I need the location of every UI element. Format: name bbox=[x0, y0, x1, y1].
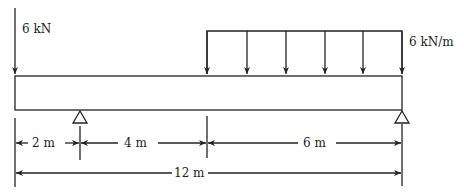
point-load-label: 6 kN bbox=[22, 22, 51, 36]
dim-6m: 6 m bbox=[303, 136, 326, 150]
beam bbox=[15, 76, 402, 110]
left-support bbox=[73, 111, 87, 123]
right-support bbox=[395, 111, 409, 123]
dim-4m: 4 m bbox=[124, 136, 147, 150]
beam-diagram bbox=[0, 0, 464, 195]
distributed-load-label: 6 kN/m bbox=[409, 35, 454, 49]
distributed-load-frame bbox=[207, 31, 402, 74]
dim-12m: 12 m bbox=[174, 166, 204, 180]
dim-2m: 2 m bbox=[32, 136, 55, 150]
